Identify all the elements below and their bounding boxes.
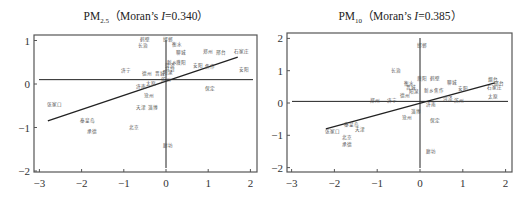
y-tick-label: −2	[18, 165, 30, 177]
city-label: 廊坊	[426, 148, 436, 155]
city-label: 焦作	[434, 87, 444, 94]
city-label: 焦作	[205, 63, 215, 70]
x-tick-label: 1	[460, 177, 466, 189]
city-label: 保定	[205, 85, 215, 92]
city-label: 菏泽	[443, 95, 453, 102]
city-label: 沧州	[144, 92, 154, 99]
city-label: 济宁	[387, 97, 397, 104]
city-label: 郑州	[370, 97, 380, 104]
chart-title: PM10（Moran’s I=0.385）	[338, 10, 461, 25]
city-label: 聊城	[447, 79, 457, 86]
city-label: 郑州	[203, 48, 213, 55]
city-label: 张家口	[47, 101, 62, 108]
x-tick-label: −3	[34, 177, 46, 189]
city-label: 长治	[391, 67, 401, 74]
x-tick-label: 0	[417, 177, 423, 189]
plot-frame	[34, 35, 257, 172]
city-label: 滨州	[454, 97, 464, 104]
city-label: 秦皇岛	[80, 117, 95, 124]
city-label: 天津	[136, 104, 146, 111]
city-label: 张家口	[325, 128, 340, 135]
x-tick-label: −2	[329, 177, 341, 189]
city-label: 北京	[129, 124, 139, 131]
city-label: 保定	[430, 117, 440, 124]
plot-frame	[287, 33, 512, 172]
city-label: 天津	[355, 126, 365, 133]
x-tick-label: 1	[205, 177, 211, 189]
chart-title: PM2.5（Moran’s I=0.340）	[84, 10, 209, 25]
city-label: 太原	[488, 93, 498, 100]
city-label: 济宁	[121, 67, 131, 74]
city-label: 安阳	[458, 85, 468, 92]
x-tick-label: −3	[286, 177, 298, 189]
city-label: 长治	[138, 42, 148, 49]
city-label: 济南	[426, 101, 436, 108]
y-tick-label: 0	[278, 97, 284, 109]
city-label: 阳泉	[409, 88, 419, 95]
pm10-moran-scatterplot: PM10（Moran’s I=0.385）−3−2−1012−2−1012邯郸长…	[271, 10, 512, 189]
city-label: 济南	[136, 83, 146, 90]
city-label: 邢台	[216, 49, 226, 56]
city-label: 新乡	[424, 87, 434, 94]
city-label: 安阳	[239, 66, 249, 73]
x-tick-label: −1	[118, 177, 130, 189]
y-tick-label: 1	[278, 65, 284, 77]
city-label: 石家庄	[234, 48, 249, 55]
x-tick-label: 2	[503, 177, 509, 189]
x-tick-label: 0	[163, 177, 169, 189]
city-label: 承德	[87, 128, 97, 135]
y-tick-label: 2	[278, 32, 284, 44]
city-label: 濮阳	[176, 59, 186, 66]
city-label: 承德	[342, 141, 352, 148]
y-tick-label: −1	[271, 129, 283, 141]
figure: PM2.5（Moran’s I=0.340）−3−2−1012−2−101鹤壁邯…	[0, 0, 521, 201]
city-label: 德州	[142, 70, 152, 77]
city-label: 北京	[342, 134, 352, 141]
city-label: 淄博	[411, 108, 421, 115]
y-tick-label: −1	[18, 122, 30, 134]
city-label: 阳泉	[163, 69, 173, 76]
city-label: 安阳	[193, 62, 203, 69]
pm25-moran-scatterplot: PM2.5（Moran’s I=0.340）−3−2−1012−2−101鹤壁邯…	[18, 10, 257, 189]
city-label: 廊坊	[163, 142, 173, 149]
city-label: 滨州	[161, 76, 171, 83]
x-tick-label: −2	[76, 177, 88, 189]
city-label: 淄博	[148, 104, 158, 111]
city-label: 濮阳	[417, 75, 427, 82]
y-tick-label: 0	[25, 78, 31, 90]
city-label: 沧州	[402, 114, 412, 121]
city-label: 鹤壁	[430, 75, 440, 82]
city-label: 邯郸	[417, 42, 427, 49]
y-tick-label: −2	[271, 162, 283, 174]
city-label: 石家庄	[487, 84, 502, 91]
x-tick-label: −1	[371, 177, 383, 189]
city-label: 衡水	[172, 41, 182, 48]
x-tick-label: 2	[248, 177, 254, 189]
city-label: 聊城	[176, 49, 186, 56]
y-tick-label: 1	[25, 35, 31, 47]
city-label: 太原	[146, 80, 156, 87]
